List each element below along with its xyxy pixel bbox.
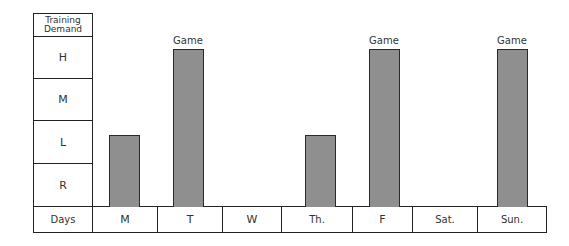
bar-mon: [109, 135, 140, 207]
day-thu: Th.: [281, 206, 353, 233]
level-r: R: [33, 163, 93, 207]
day-sat: Sat.: [412, 206, 478, 233]
y-axis-header-line2: Demand: [44, 25, 82, 34]
day-wed: W: [222, 206, 282, 233]
level-h: H: [33, 36, 93, 79]
bar-tue: [173, 49, 204, 207]
day-fri: F: [352, 206, 413, 233]
level-m: M: [33, 78, 93, 121]
day-sun: Sun.: [477, 206, 547, 233]
day-mon: M: [92, 206, 158, 233]
annotation-game-fri: Game: [354, 35, 414, 46]
day-tue: T: [157, 206, 223, 233]
annotation-game-tue: Game: [158, 35, 218, 46]
x-axis-header: Days: [33, 206, 93, 233]
level-l: L: [33, 120, 93, 164]
bar-thu: [305, 135, 336, 207]
bar-fri: [369, 49, 400, 207]
bar-sun: [497, 49, 528, 207]
annotation-game-sun: Game: [482, 35, 542, 46]
y-axis-header: Training Demand: [33, 13, 93, 37]
